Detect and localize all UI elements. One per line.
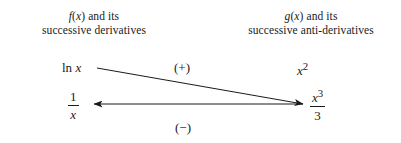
right-column-heading: g(x) and its successive anti-derivatives — [222, 9, 400, 37]
node-x-squared: x2 — [297, 61, 308, 77]
node-x-squared-exponent: 2 — [303, 60, 308, 72]
node-ln-x-function: ln — [62, 60, 72, 75]
right-column-heading-line1: g(x) and its — [222, 9, 400, 23]
node-one-over-x: 1 x — [68, 90, 79, 121]
left-column-heading-line1: f(x) and its — [14, 9, 174, 23]
node-x-cubed-over-three-denominator: 3 — [310, 109, 325, 123]
sign-label-plus: (+) — [174, 61, 190, 74]
fraction-bar — [68, 105, 79, 106]
node-x-cubed-over-three: x3 3 — [310, 88, 325, 123]
node-one-over-x-denominator: x — [68, 108, 79, 122]
sign-label-minus: (−) — [175, 121, 191, 134]
right-column-heading-line2: successive anti-derivatives — [222, 23, 400, 37]
node-one-over-x-numerator: 1 — [68, 90, 79, 104]
node-x-cubed-over-three-numerator: x3 — [310, 88, 325, 105]
left-column-heading: f(x) and its successive derivatives — [14, 9, 174, 37]
node-ln-x-variable: x — [75, 60, 81, 75]
node-ln-x: ln x — [62, 61, 81, 74]
diagonal-plus-arrow — [97, 68, 303, 104]
node-x-cubed-exponent: 3 — [318, 87, 323, 99]
diagram-canvas: f(x) and its successive derivatives g(x)… — [0, 0, 401, 143]
left-column-heading-line2: successive derivatives — [14, 23, 174, 37]
